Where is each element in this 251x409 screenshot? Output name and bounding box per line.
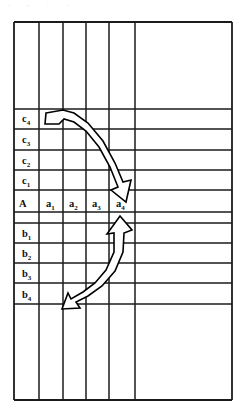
grid-table-figure: . , . . xyxy=(0,0,251,409)
column-header-a1: a1 xyxy=(46,198,55,212)
row-label-c4: c4 xyxy=(22,113,31,127)
column-header-a3: a3 xyxy=(92,198,101,212)
row-label-b4: b4 xyxy=(22,289,32,303)
row-label-b3: b3 xyxy=(22,268,32,282)
row-label-c1: c1 xyxy=(22,175,31,189)
arrow-group xyxy=(45,110,132,309)
row-label-c3: c3 xyxy=(22,134,31,148)
lower-row-labels: b1 b2 b3 b4 xyxy=(22,228,32,303)
row-label-c2: c2 xyxy=(22,155,31,169)
row-label-b1: b1 xyxy=(22,228,32,242)
arrow-c4-to-a4 xyxy=(45,110,131,202)
row-label-b2: b2 xyxy=(22,248,32,262)
figure-canvas: c4 c3 c2 c1 A a1 a2 a3 a4 b1 b2 b3 b4 xyxy=(0,0,251,409)
row-label-header-A: A xyxy=(19,198,27,209)
upper-row-labels: c4 c3 c2 c1 xyxy=(22,113,31,189)
column-header-a2: a2 xyxy=(69,198,78,212)
